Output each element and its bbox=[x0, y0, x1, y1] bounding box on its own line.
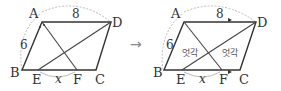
label-f: F bbox=[219, 72, 228, 87]
label-e: E bbox=[32, 72, 42, 87]
alt-angle-label-right: 엇각 bbox=[222, 47, 238, 58]
angle-mark bbox=[39, 26, 41, 28]
segment-de bbox=[182, 22, 256, 70]
figure-right: A D B E F C 8 6 x 엇각 엇각 bbox=[153, 6, 267, 87]
figure-left: A D B E F C 8 6 x bbox=[10, 6, 122, 87]
label-e: E bbox=[176, 72, 186, 87]
parallelogram-abcd bbox=[164, 22, 256, 70]
label-f: F bbox=[73, 72, 82, 87]
label-d: D bbox=[257, 15, 267, 30]
length-ad: 8 bbox=[72, 7, 80, 21]
label-b: B bbox=[10, 65, 20, 80]
length-ab: 6 bbox=[20, 38, 28, 52]
parallelogram-abcd bbox=[22, 22, 111, 70]
angle-mark bbox=[43, 24, 45, 26]
length-ab: 6 bbox=[166, 38, 174, 52]
label-b: B bbox=[153, 65, 163, 80]
label-d: D bbox=[112, 15, 122, 30]
segment-de bbox=[38, 22, 111, 70]
label-a: A bbox=[28, 6, 39, 21]
segment-af bbox=[42, 22, 77, 70]
length-ad: 8 bbox=[216, 7, 224, 21]
label-c: C bbox=[95, 72, 105, 87]
length-ef: x bbox=[55, 72, 62, 86]
diagram-canvas: A D B E F C 8 6 x → A D B E F C 8 6 x 엇각… bbox=[0, 0, 281, 91]
alt-angle-label-left: 엇각 bbox=[182, 47, 198, 58]
length-ef: x bbox=[199, 72, 206, 86]
label-a: A bbox=[170, 6, 181, 21]
segment-af bbox=[184, 22, 222, 70]
arrow-icon: → bbox=[130, 36, 142, 52]
label-c: C bbox=[239, 72, 249, 87]
